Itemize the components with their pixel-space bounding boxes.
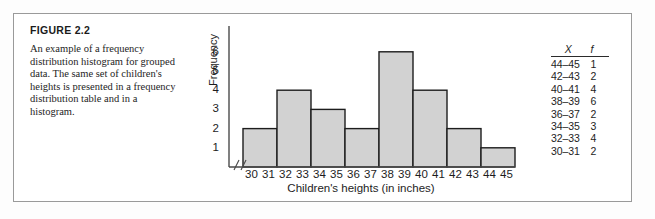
table-cell-interval: 34–35 — [551, 120, 585, 132]
x-axis-title: Children's heights (in inches) — [221, 182, 501, 194]
histogram-bar — [481, 148, 515, 167]
histogram-bar — [311, 109, 345, 167]
caption-block: FIGURE 2.2 An example of a frequency dis… — [30, 24, 182, 119]
x-axis-tick-label: 33 — [295, 168, 311, 180]
histogram-chart: Frequency 123456 30313233343536373839404… — [193, 20, 523, 200]
table-cell-frequency: 4 — [585, 83, 609, 95]
x-axis-tick-label: 30 — [244, 168, 260, 180]
x-axis-tick-label: 43 — [465, 168, 481, 180]
histogram-bar — [447, 129, 481, 167]
frequency-table-body: 44–45142–43240–41438–39636–37234–35332–3… — [551, 57, 609, 158]
table-row: 42–432 — [551, 70, 609, 82]
table-cell-interval: 36–37 — [551, 108, 585, 120]
x-axis-tick-label: 38 — [380, 168, 396, 180]
x-axis-tick-label: 36 — [346, 168, 362, 180]
x-axis-tick-label: 35 — [329, 168, 345, 180]
table-cell-interval: 40–41 — [551, 83, 585, 95]
x-axis-tick-label: 32 — [278, 168, 294, 180]
table-cell-frequency: 2 — [585, 70, 609, 82]
x-axis-tick-label: 40 — [414, 168, 430, 180]
x-axis-tick-label: 45 — [499, 168, 515, 180]
table-row: 32–334 — [551, 132, 609, 144]
table-row: 34–353 — [551, 120, 609, 132]
histogram-bars-group — [243, 52, 515, 167]
histogram-bar — [243, 129, 277, 167]
table-row: 30–312 — [551, 145, 609, 157]
figure-caption-text: An example of a frequency distribution h… — [30, 43, 182, 119]
frequency-table: X f 44–45142–43240–41438–39636–37234–353… — [551, 43, 617, 157]
x-axis-tick-label: 42 — [448, 168, 464, 180]
x-axis-tick-label: 34 — [312, 168, 328, 180]
table-row: 44–451 — [551, 57, 609, 71]
table-row: 36–372 — [551, 108, 609, 120]
table-cell-frequency: 2 — [585, 108, 609, 120]
table-cell-frequency: 2 — [585, 145, 609, 157]
table-cell-frequency: 4 — [585, 132, 609, 144]
histogram-bar — [413, 90, 447, 167]
x-axis-tick-labels: 30313233343536373839404142434445 — [193, 168, 523, 182]
x-axis-tick-label: 37 — [363, 168, 379, 180]
x-axis-tick-label: 44 — [482, 168, 498, 180]
histogram-bar — [345, 129, 379, 167]
table-row: 38–396 — [551, 95, 609, 107]
column-header-x: X — [551, 43, 585, 57]
table-cell-frequency: 3 — [585, 120, 609, 132]
table-cell-interval: 38–39 — [551, 95, 585, 107]
figure-number-label: FIGURE 2.2 — [30, 24, 182, 36]
table-cell-interval: 30–31 — [551, 145, 585, 157]
table-header-row: X f — [551, 43, 609, 57]
figure-container: FIGURE 2.2 An example of a frequency dis… — [0, 0, 655, 219]
table-cell-interval: 32–33 — [551, 132, 585, 144]
table-cell-frequency: 1 — [585, 57, 609, 71]
table-cell-frequency: 6 — [585, 95, 609, 107]
histogram-bar — [379, 52, 413, 167]
x-axis-tick-label: 39 — [397, 168, 413, 180]
table-cell-interval: 44–45 — [551, 57, 585, 71]
table-row: 40–414 — [551, 83, 609, 95]
histogram-plot-svg — [193, 20, 523, 185]
x-axis-tick-label: 31 — [261, 168, 277, 180]
column-header-f: f — [585, 43, 609, 57]
table-cell-interval: 42–43 — [551, 70, 585, 82]
x-axis-tick-label: 41 — [431, 168, 447, 180]
histogram-bar — [277, 90, 311, 167]
